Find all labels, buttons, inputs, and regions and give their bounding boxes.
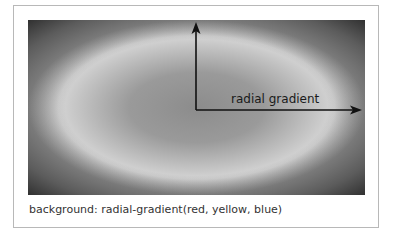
radial-gradient-axis-label: radial gradient bbox=[231, 92, 319, 106]
arrow-up-icon bbox=[192, 22, 201, 110]
figure-caption: background: radial-gradient(red, yellow,… bbox=[29, 203, 282, 216]
arrow-right-icon bbox=[196, 106, 362, 115]
